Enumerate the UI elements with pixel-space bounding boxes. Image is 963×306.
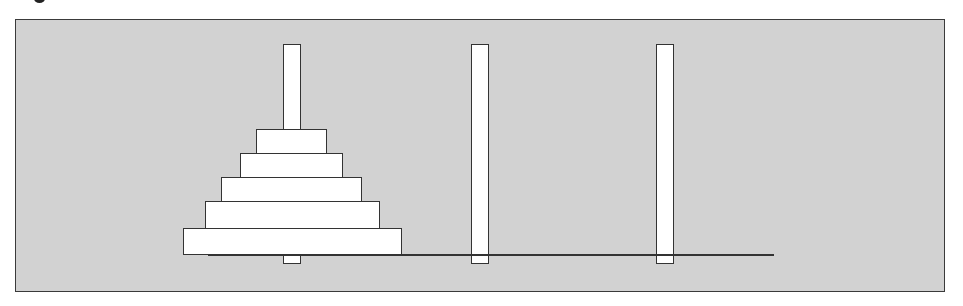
peg-c[interactable]	[656, 44, 674, 264]
disk-4[interactable]	[205, 201, 380, 229]
corner-mark	[34, 0, 45, 3]
peg-b[interactable]	[471, 44, 489, 264]
disk-1[interactable]	[256, 129, 327, 154]
disk-5[interactable]	[183, 228, 402, 255]
disk-3[interactable]	[221, 177, 362, 202]
disk-2[interactable]	[240, 153, 343, 178]
